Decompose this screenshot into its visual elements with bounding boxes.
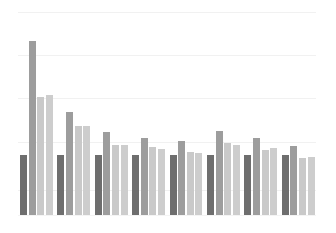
bar — [178, 141, 185, 215]
bar-group — [132, 10, 165, 215]
bar-group — [244, 10, 277, 215]
bar — [207, 155, 214, 215]
bar — [224, 143, 231, 215]
bar — [141, 138, 148, 215]
bar — [132, 155, 139, 215]
bar — [282, 155, 289, 215]
bar — [253, 138, 260, 215]
bar-group — [207, 10, 240, 215]
bar — [195, 153, 202, 215]
bar — [95, 155, 102, 215]
bar-group — [57, 10, 90, 215]
bar-group — [282, 10, 315, 215]
bars-layer — [0, 0, 336, 233]
bar — [20, 155, 27, 215]
bar — [75, 126, 82, 215]
bar-group — [170, 10, 203, 215]
bar — [66, 112, 73, 215]
bar — [112, 145, 119, 215]
bar — [187, 152, 194, 215]
bar — [37, 97, 44, 215]
bar — [270, 148, 277, 215]
bar — [308, 157, 315, 215]
bar — [29, 41, 36, 215]
plot-area — [0, 0, 336, 233]
bar — [290, 146, 297, 215]
bar — [149, 147, 156, 215]
bar — [299, 158, 306, 215]
bar-group — [20, 10, 53, 215]
bar — [103, 132, 110, 215]
bar — [233, 145, 240, 215]
bar — [244, 155, 251, 215]
bar-group — [95, 10, 128, 215]
bar — [57, 155, 64, 215]
bar — [121, 145, 128, 215]
bar — [158, 149, 165, 215]
bar — [170, 155, 177, 215]
bar — [46, 95, 53, 215]
bar — [216, 131, 223, 215]
bar — [83, 126, 90, 215]
bar — [262, 150, 269, 215]
bar-chart — [0, 0, 336, 233]
